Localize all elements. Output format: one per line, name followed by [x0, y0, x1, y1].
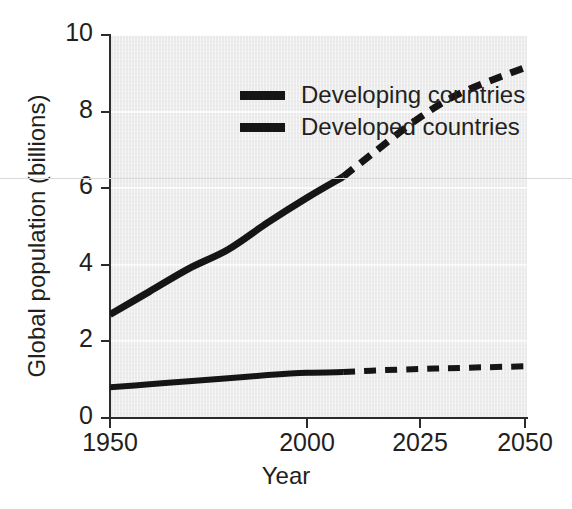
legend-label-developed: Developed countries: [301, 115, 520, 139]
developed-countries-dashed-line: [343, 366, 525, 372]
y-tick-6: [101, 187, 109, 189]
legend-swatch-developing-icon: [240, 91, 285, 100]
y-tick-8: [101, 111, 109, 113]
x-tick-1950: [109, 419, 111, 428]
legend-item-developing: Developing countries: [240, 79, 525, 111]
x-tick-2000: [306, 419, 308, 428]
chart-legend: Developing countries Developed countries: [240, 79, 525, 143]
legend-swatch-developed-icon: [240, 123, 285, 132]
developing-countries-solid-line: [110, 177, 343, 315]
y-tick-0: [101, 417, 109, 419]
y-tick-10: [101, 34, 109, 36]
x-axis-title: Year: [0, 462, 572, 490]
x-tick-2025: [419, 419, 421, 428]
x-tick-label-2050: 2050: [497, 428, 553, 457]
population-chart-figure: Developing countries Developed countries…: [0, 0, 572, 509]
legend-label-developing: Developing countries: [301, 83, 525, 107]
plot-area: Developing countries Developed countries: [110, 35, 527, 418]
y-tick-4: [101, 264, 109, 266]
x-tick-label-2025: 2025: [392, 428, 448, 457]
x-tick-label-1950: 1950: [82, 428, 138, 457]
x-tick-label-2000: 2000: [279, 428, 335, 457]
developed-countries-solid-line: [110, 372, 343, 387]
y-tick-2: [101, 340, 109, 342]
y-axis-title: Global population (billions): [23, 71, 51, 401]
legend-item-developed: Developed countries: [240, 111, 525, 143]
x-tick-2050: [524, 419, 526, 428]
